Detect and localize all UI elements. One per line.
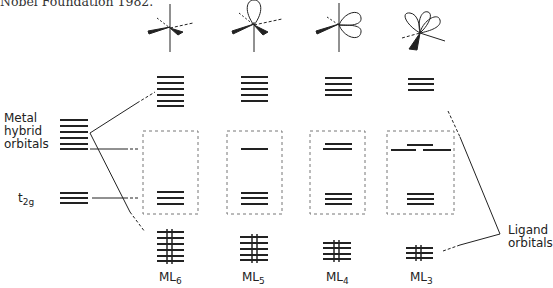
label-line: orbitals: [508, 237, 553, 250]
ml-base: ML: [326, 270, 343, 284]
ml6-label: ML6: [159, 270, 182, 286]
ml6-levels: [157, 77, 184, 261]
t2g-levels: [60, 193, 88, 203]
ligand-label: Ligand orbitals: [508, 224, 553, 250]
ml-base: ML: [242, 270, 259, 284]
ml-sub: 5: [259, 276, 265, 286]
ml-sub: 4: [343, 276, 349, 286]
ml5-geometry-icon: [232, 0, 282, 52]
ml4-label: ML4: [326, 270, 349, 286]
ml-base: ML: [410, 270, 427, 284]
metal-hybrid-label: Metal hybrid orbitals: [4, 112, 49, 151]
ml4-geometry-icon: [316, 3, 361, 52]
label-line: orbitals: [4, 138, 49, 151]
ml5-label: ML5: [242, 270, 265, 286]
t2g-label: t2g: [18, 192, 34, 209]
t2g-sub: 2g: [23, 197, 34, 207]
ml3-geometry-icon: [402, 12, 445, 50]
ml3-label: ML3: [410, 270, 433, 286]
ml-sub: 6: [176, 276, 182, 286]
ml-sub: 3: [427, 276, 433, 286]
ml-base: ML: [159, 270, 176, 284]
ml6-geometry-icon: [148, 4, 193, 52]
metal-hybrid-levels: [60, 120, 88, 149]
